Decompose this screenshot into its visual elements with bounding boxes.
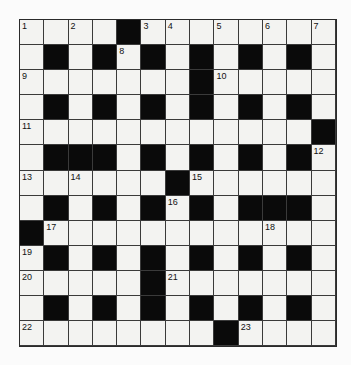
- grid-cell[interactable]: [214, 95, 238, 120]
- grid-cell[interactable]: [117, 246, 141, 271]
- grid-cell[interactable]: [141, 70, 165, 95]
- grid-cell[interactable]: [69, 296, 93, 321]
- grid-cell[interactable]: [263, 45, 287, 70]
- grid-cell[interactable]: [117, 296, 141, 321]
- grid-cell[interactable]: [263, 171, 287, 196]
- grid-cell[interactable]: 19: [20, 246, 44, 271]
- grid-cell[interactable]: 18: [263, 221, 287, 246]
- grid-cell[interactable]: [117, 145, 141, 170]
- grid-cell[interactable]: [312, 321, 336, 346]
- grid-cell[interactable]: [190, 221, 214, 246]
- grid-cell[interactable]: [93, 221, 117, 246]
- grid-cell[interactable]: [239, 20, 263, 45]
- grid-cell[interactable]: [166, 45, 190, 70]
- grid-cell[interactable]: 14: [69, 171, 93, 196]
- grid-cell[interactable]: [214, 145, 238, 170]
- grid-cell[interactable]: 10: [214, 70, 238, 95]
- grid-cell[interactable]: [117, 70, 141, 95]
- grid-cell[interactable]: [166, 321, 190, 346]
- grid-cell[interactable]: [287, 271, 311, 296]
- grid-cell[interactable]: [69, 45, 93, 70]
- grid-cell[interactable]: [214, 171, 238, 196]
- grid-cell[interactable]: [239, 70, 263, 95]
- grid-cell[interactable]: 11: [20, 120, 44, 145]
- grid-cell[interactable]: 3: [141, 20, 165, 45]
- grid-cell[interactable]: [239, 271, 263, 296]
- grid-cell[interactable]: [166, 296, 190, 321]
- grid-cell[interactable]: [190, 120, 214, 145]
- grid-cell[interactable]: [93, 171, 117, 196]
- grid-cell[interactable]: 12: [312, 145, 336, 170]
- grid-cell[interactable]: [69, 246, 93, 271]
- grid-cell[interactable]: [190, 321, 214, 346]
- grid-cell[interactable]: [93, 321, 117, 346]
- grid-cell[interactable]: [166, 120, 190, 145]
- grid-cell[interactable]: [93, 120, 117, 145]
- grid-cell[interactable]: [93, 20, 117, 45]
- grid-cell[interactable]: [190, 271, 214, 296]
- grid-cell[interactable]: [141, 221, 165, 246]
- grid-cell[interactable]: [20, 296, 44, 321]
- grid-cell[interactable]: [312, 45, 336, 70]
- grid-cell[interactable]: [20, 145, 44, 170]
- grid-cell[interactable]: 7: [312, 20, 336, 45]
- grid-cell[interactable]: 13: [20, 171, 44, 196]
- grid-cell[interactable]: [263, 95, 287, 120]
- grid-cell[interactable]: [20, 196, 44, 221]
- grid-cell[interactable]: [239, 120, 263, 145]
- grid-cell[interactable]: [69, 321, 93, 346]
- grid-cell[interactable]: 8: [117, 45, 141, 70]
- grid-cell[interactable]: [239, 171, 263, 196]
- grid-cell[interactable]: 6: [263, 20, 287, 45]
- grid-cell[interactable]: [141, 120, 165, 145]
- grid-cell[interactable]: [312, 95, 336, 120]
- grid-cell[interactable]: [166, 246, 190, 271]
- grid-cell[interactable]: [312, 296, 336, 321]
- grid-cell[interactable]: [117, 120, 141, 145]
- grid-cell[interactable]: [263, 271, 287, 296]
- grid-cell[interactable]: [69, 120, 93, 145]
- grid-cell[interactable]: [214, 296, 238, 321]
- grid-cell[interactable]: [117, 171, 141, 196]
- grid-cell[interactable]: [312, 171, 336, 196]
- grid-cell[interactable]: [214, 45, 238, 70]
- grid-cell[interactable]: 15: [190, 171, 214, 196]
- grid-cell[interactable]: [44, 20, 68, 45]
- grid-cell[interactable]: [69, 221, 93, 246]
- grid-cell[interactable]: [141, 171, 165, 196]
- grid-cell[interactable]: [239, 221, 263, 246]
- grid-cell[interactable]: [263, 145, 287, 170]
- grid-cell[interactable]: [263, 120, 287, 145]
- grid-cell[interactable]: [312, 246, 336, 271]
- grid-cell[interactable]: 21: [166, 271, 190, 296]
- grid-cell[interactable]: [69, 271, 93, 296]
- grid-cell[interactable]: [312, 221, 336, 246]
- grid-cell[interactable]: [44, 120, 68, 145]
- grid-cell[interactable]: 16: [166, 196, 190, 221]
- grid-cell[interactable]: 23: [239, 321, 263, 346]
- grid-cell[interactable]: [287, 171, 311, 196]
- grid-cell[interactable]: [287, 221, 311, 246]
- grid-cell[interactable]: 1: [20, 20, 44, 45]
- grid-cell[interactable]: [141, 321, 165, 346]
- grid-cell[interactable]: 2: [69, 20, 93, 45]
- grid-cell[interactable]: [190, 20, 214, 45]
- grid-cell[interactable]: 22: [20, 321, 44, 346]
- grid-cell[interactable]: [166, 70, 190, 95]
- grid-cell[interactable]: [20, 45, 44, 70]
- grid-cell[interactable]: [214, 246, 238, 271]
- grid-cell[interactable]: [20, 95, 44, 120]
- grid-cell[interactable]: [214, 120, 238, 145]
- grid-cell[interactable]: 17: [44, 221, 68, 246]
- grid-cell[interactable]: [214, 221, 238, 246]
- grid-cell[interactable]: [263, 246, 287, 271]
- grid-cell[interactable]: [166, 221, 190, 246]
- grid-cell[interactable]: 5: [214, 20, 238, 45]
- grid-cell[interactable]: [117, 221, 141, 246]
- grid-cell[interactable]: [312, 196, 336, 221]
- grid-cell[interactable]: [93, 271, 117, 296]
- grid-cell[interactable]: 9: [20, 70, 44, 95]
- grid-cell[interactable]: [312, 271, 336, 296]
- grid-cell[interactable]: [166, 95, 190, 120]
- grid-cell[interactable]: [44, 321, 68, 346]
